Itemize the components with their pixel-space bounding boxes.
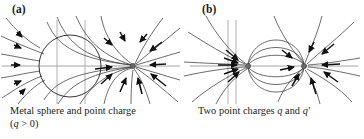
panel-b-caption: Two point charges q and q′	[182, 104, 364, 117]
panel-b-caption-line1: Two point charges q and q′	[198, 105, 310, 116]
field-lines	[1, 16, 180, 104]
panel-a-caption: Metal sphere and point charge (q > 0)	[0, 104, 182, 130]
panel-a-svg	[0, 14, 182, 104]
point-charge-marker	[130, 63, 135, 68]
panel-a-caption-line1: Metal sphere and point charge	[10, 105, 136, 116]
metal-sphere-and-point-charge-diagram	[0, 14, 182, 104]
axis-guides	[2, 20, 180, 104]
field-lines	[184, 16, 360, 104]
figure-electric-field-diagrams: (a)	[0, 0, 364, 139]
two-point-charges-diagram	[182, 14, 364, 104]
panel-b: (b)	[182, 0, 364, 139]
panel-a-caption-line2: (q > 0)	[10, 117, 182, 130]
panel-b-svg	[182, 14, 364, 104]
panel-a: (a)	[0, 0, 182, 139]
